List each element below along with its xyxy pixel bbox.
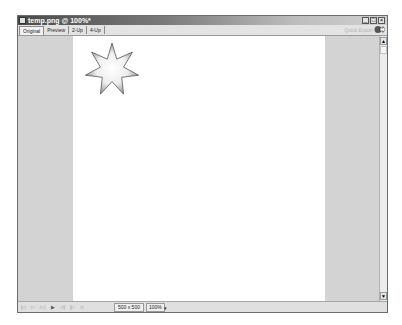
last-frame-icon[interactable]: ▷|	[40, 304, 45, 310]
tab-4-up[interactable]: 4-Up	[87, 26, 105, 34]
window-controls: _ □ ×	[362, 17, 385, 24]
minimize-button[interactable]: _	[362, 17, 369, 24]
scroll-down-arrow-icon[interactable]: ▼	[380, 292, 387, 300]
quick-export-icon[interactable]	[374, 25, 385, 34]
next-frame-icon[interactable]: |▷	[70, 304, 75, 310]
view-tabs: Original Preview 2-Up 4-Up	[19, 26, 105, 35]
zoom-dropdown-icon[interactable]: ▾	[164, 305, 167, 311]
zoom-level[interactable]: 100%	[146, 303, 165, 312]
tab-original[interactable]: Original	[19, 26, 44, 35]
vertical-scrollbar[interactable]: ▲ ▼	[379, 36, 387, 301]
canvas-area	[18, 36, 379, 301]
image-dimensions[interactable]: 500 x 500	[114, 303, 144, 312]
quick-export-label: Quick Export	[344, 26, 373, 34]
first-frame-icon[interactable]: |◁	[21, 304, 26, 310]
exit-bitmap-mode-icon[interactable]: ◇	[80, 304, 84, 310]
tab-2-up[interactable]: 2-Up	[69, 26, 87, 34]
view-toolbar: Original Preview 2-Up 4-Up Quick Export	[18, 25, 387, 36]
title-bar[interactable]: temp.png @ 100%* _ □ ×	[18, 16, 387, 25]
frame-controls: |◁ ▷ ▷| ▶ ◁| |▷ ◇	[21, 304, 84, 310]
previous-frame-icon[interactable]: ◁|	[60, 304, 65, 310]
status-bar: |◁ ▷ ▷| ▶ ◁| |▷ ◇ 500 x 500 100% ▾	[18, 301, 387, 312]
close-button[interactable]: ×	[378, 17, 385, 24]
image-canvas[interactable]	[73, 36, 325, 301]
document-window: temp.png @ 100%* _ □ × Original Preview …	[17, 15, 388, 313]
scroll-up-arrow-icon[interactable]: ▲	[380, 37, 387, 45]
play-icon[interactable]: ▷	[31, 304, 35, 310]
scroll-thumb[interactable]	[380, 46, 387, 54]
document-icon	[19, 17, 26, 24]
tab-preview[interactable]: Preview	[44, 26, 69, 34]
window-title: temp.png @ 100%*	[28, 16, 91, 25]
maximize-button[interactable]: □	[370, 17, 377, 24]
star-shape[interactable]	[83, 41, 141, 97]
current-frame-icon[interactable]: ▶	[51, 304, 55, 310]
